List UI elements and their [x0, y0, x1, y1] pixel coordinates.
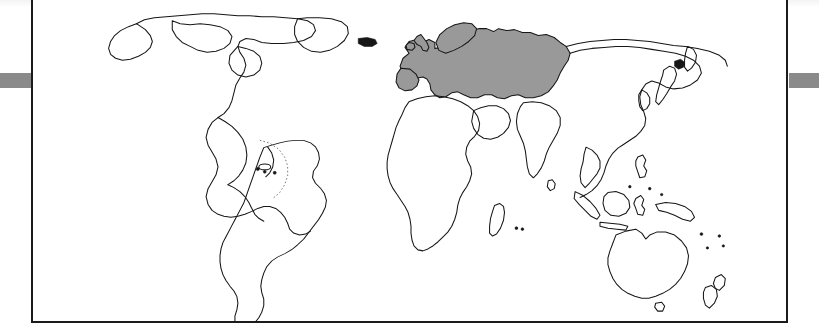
coastline-central-america [228, 185, 264, 222]
coastline-arabian-peninsula [472, 106, 511, 140]
world-map [33, 0, 786, 321]
island-dot [700, 233, 703, 236]
coastline-canada-arctic [172, 21, 232, 53]
page-edge-shadow-right [789, 73, 819, 88]
coastline-alaska [109, 24, 153, 61]
island-cuba [259, 164, 271, 170]
coastline-india [516, 102, 560, 178]
island-dot [273, 171, 276, 174]
coastline-greenland [295, 18, 349, 53]
coastline-hokkaido [675, 59, 685, 69]
coastline-siberian-arctic [566, 39, 727, 66]
island-dot [515, 227, 518, 230]
coastline-iceland [358, 38, 377, 47]
coastline-tasmania [655, 302, 665, 311]
island-dot [722, 245, 724, 247]
coastline-new-guinea [656, 202, 695, 221]
coastline-sri-lanka [547, 180, 555, 191]
island-dot [718, 235, 721, 238]
coastline-philippines [636, 155, 647, 178]
coastline-africa [387, 96, 480, 251]
highlight-ireland [406, 42, 415, 50]
coastline-east-asia [570, 46, 701, 197]
island-dot [660, 193, 662, 195]
page-edge-shadow-left [0, 73, 31, 88]
coastline-borneo [603, 192, 630, 217]
coastline-japan [656, 66, 677, 105]
coastline-south-america [220, 140, 326, 321]
coastline-australia [608, 229, 689, 298]
coastline-sumatra [574, 192, 600, 220]
scanned-page [0, 0, 819, 334]
coastline-sulawesi [634, 196, 645, 216]
coastline-florida [266, 147, 274, 177]
figure-frame [31, 0, 788, 323]
island-dot [521, 228, 524, 231]
coastline-indochina [580, 147, 600, 187]
island-dot [706, 247, 708, 249]
coastline-madagascar [490, 203, 505, 236]
island-dot [648, 187, 651, 190]
highlighted-region-europe-western-russia [400, 29, 570, 99]
island-dot [263, 170, 266, 173]
island-dot [629, 185, 632, 188]
coastline-new-zealand-south [703, 285, 717, 308]
coastline-java [600, 222, 628, 230]
coastline-mexico [218, 118, 247, 185]
